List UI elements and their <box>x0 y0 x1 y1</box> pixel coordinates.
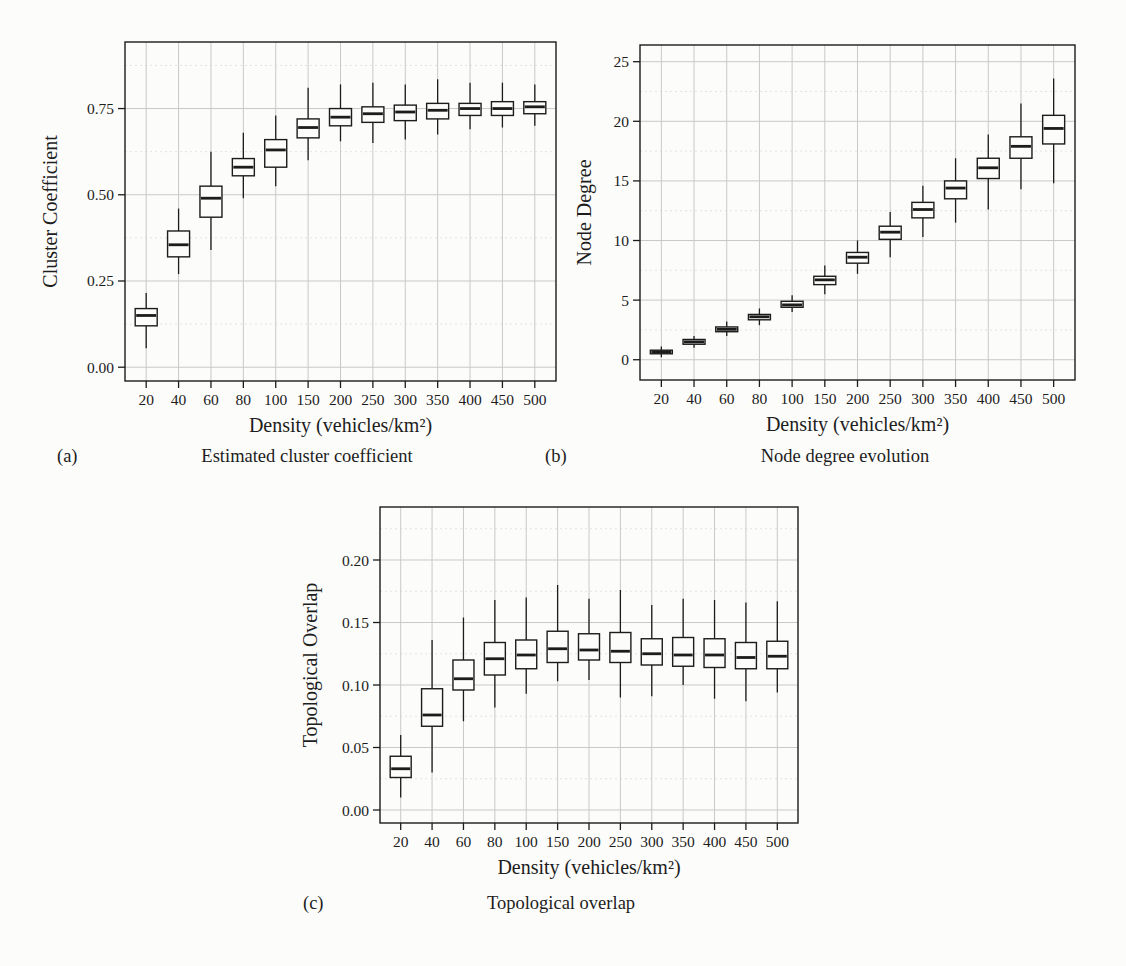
x-tick-label: 300 <box>640 833 664 850</box>
box-200 <box>579 599 600 680</box>
x-tick-label: 400 <box>458 391 482 408</box>
x-tick-label: 40 <box>686 390 702 407</box>
y-tick-label: 0.15 <box>342 614 369 631</box>
x-tick-label: 250 <box>361 391 385 408</box>
box-400 <box>459 83 481 130</box>
x-tick-label: 450 <box>491 391 515 408</box>
box-500 <box>1043 78 1065 183</box>
y-tick-label: 15 <box>614 172 630 189</box>
y-axis-title: Node Degree <box>573 159 596 265</box>
x-tick-label: 60 <box>719 390 735 407</box>
box-250 <box>610 590 631 698</box>
box-60 <box>453 618 474 722</box>
x-tick-label: 450 <box>734 833 758 850</box>
box-40 <box>683 336 705 348</box>
x-tick-label: 200 <box>846 390 870 407</box>
iqr-box <box>453 660 474 690</box>
y-tick-label: 25 <box>614 53 630 70</box>
tick-labels: 204060801001502002503003504004505000.000… <box>342 552 789 851</box>
x-tick-label: 150 <box>296 391 320 408</box>
box-300 <box>912 186 934 237</box>
box-100 <box>516 598 537 694</box>
y-tick-label: 0.25 <box>87 272 114 289</box>
figure-caption-c: Topological overlap <box>487 893 635 914</box>
x-tick-label: 80 <box>236 391 252 408</box>
y-axis-title: Cluster Coefficient <box>39 135 61 288</box>
iqr-box <box>641 639 662 665</box>
x-tick-label: 500 <box>766 833 790 850</box>
box-20 <box>135 293 157 348</box>
x-tick-label: 150 <box>546 833 570 850</box>
iqr-box <box>390 756 411 777</box>
box-250 <box>879 212 901 257</box>
boxplot-chart-node-degree: 2040608010015020025030035040045050005101… <box>560 25 1120 450</box>
figure-page: 204060801001502002503003504004505000.000… <box>0 0 1126 966</box>
box-200 <box>847 241 869 274</box>
iqr-box <box>735 643 756 669</box>
x-tick-label: 100 <box>515 833 539 850</box>
box-60 <box>716 322 738 336</box>
box-20 <box>650 347 672 358</box>
y-tick-label: 0.10 <box>342 677 369 694</box>
box-60 <box>200 152 222 250</box>
x-tick-label: 200 <box>329 391 353 408</box>
x-tick-label: 100 <box>780 390 804 407</box>
x-axis-title: Density (vehicles/km²) <box>249 414 432 437</box>
iqr-box <box>135 309 157 326</box>
x-tick-label: 150 <box>813 390 837 407</box>
y-tick-label: 0.75 <box>87 100 114 117</box>
y-tick-label: 20 <box>614 113 630 130</box>
box-100 <box>265 115 287 186</box>
box-80 <box>484 600 505 708</box>
iqr-box <box>422 689 443 727</box>
x-tick-label: 100 <box>264 391 288 408</box>
x-tick-label: 300 <box>394 391 418 408</box>
x-tick-label: 350 <box>426 391 450 408</box>
box-200 <box>330 84 352 141</box>
x-tick-label: 400 <box>703 833 727 850</box>
x-tick-label: 80 <box>752 390 768 407</box>
box-250 <box>362 83 384 143</box>
figure-label-c: (c) <box>303 893 324 914</box>
figure-label-a: (a) <box>57 446 78 467</box>
x-tick-label: 400 <box>977 390 1001 407</box>
box-450 <box>1010 103 1032 189</box>
iqr-box <box>265 140 287 168</box>
box-350 <box>945 158 967 222</box>
y-tick-label: 0 <box>621 351 629 368</box>
x-tick-label: 200 <box>577 833 601 850</box>
x-tick-label: 60 <box>203 391 219 408</box>
y-tick-label: 0.00 <box>342 802 369 819</box>
box-40 <box>422 640 443 773</box>
tick-labels: 2040608010015020025030035040045050005101… <box>614 53 1066 407</box>
figure-label-b: (b) <box>545 446 567 467</box>
figure-caption-a: Estimated cluster coefficient <box>201 446 412 467</box>
iqr-box <box>673 638 694 667</box>
x-tick-label: 20 <box>138 391 154 408</box>
box-350 <box>427 79 449 134</box>
box-300 <box>641 605 662 696</box>
box-150 <box>547 585 568 681</box>
iqr-box <box>547 631 568 662</box>
iqr-box <box>704 639 725 668</box>
box-450 <box>735 603 756 702</box>
x-tick-label: 20 <box>654 390 670 407</box>
box-350 <box>673 599 694 685</box>
y-tick-label: 0.05 <box>342 739 369 756</box>
y-tick-label: 0.50 <box>87 186 114 203</box>
x-tick-label: 500 <box>1042 390 1066 407</box>
iqr-box <box>200 186 222 217</box>
tick-labels: 204060801001502002503003504004505000.000… <box>87 100 547 408</box>
boxplot-chart-cluster-coefficient: 204060801001502002503003504004505000.000… <box>40 25 570 450</box>
x-tick-label: 250 <box>879 390 903 407</box>
x-axis-title: Density (vehicles/km²) <box>497 856 680 879</box>
y-tick-label: 10 <box>614 232 630 249</box>
y-tick-label: 5 <box>621 292 629 309</box>
y-tick-label: 0.20 <box>342 552 369 569</box>
box-40 <box>168 209 190 275</box>
box-400 <box>704 600 725 699</box>
x-tick-label: 350 <box>672 833 696 850</box>
figure-caption-b: Node degree evolution <box>761 446 930 467</box>
x-axis-title: Density (vehicles/km²) <box>766 413 949 436</box>
box-150 <box>297 88 319 160</box>
